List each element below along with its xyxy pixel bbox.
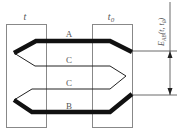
conductor-c-upper-label: C [66,55,72,65]
arrow-down-icon [168,88,173,95]
thermocouple-diagram: t t0 A C C B EAB(t, t0) [0,0,179,137]
conductor-b-label: B [66,101,72,111]
conductor-a-label: A [66,29,73,39]
hot-junction-label: t [24,11,27,22]
emf-label: EAB(t, t0) [157,18,167,47]
conductor-a [14,41,132,53]
cold-junction-label: t0 [108,11,115,24]
conductor-b [14,94,132,112]
arrow-up-icon [168,51,173,58]
conductor-c-lower-label: C [66,78,72,88]
